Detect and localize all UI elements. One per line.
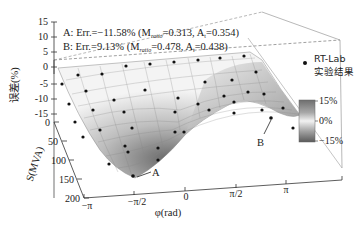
legend-line1: RT-Lab — [314, 53, 345, 64]
svg-text:B: Err.=9.13% (Mratio=0.478, A: B: Err.=9.13% (Mratio=0.478, At=0.438) — [63, 41, 228, 53]
x-tick: 0 — [184, 191, 189, 202]
colorbar-tick: 15% — [319, 95, 337, 106]
legend-line2: 实验结果 — [314, 66, 354, 77]
legend: RT-Lab 实验结果 — [303, 53, 354, 77]
colorbar-tick: −15% — [319, 135, 343, 146]
point-label-a: A — [152, 167, 160, 178]
z-axis-label: 误差(%) — [8, 67, 21, 103]
x-axis-label: φ(rad) — [155, 207, 182, 219]
z-axis: 15 10 5 0 -5 -10 -15 误差(%) — [8, 16, 57, 119]
error-surface-chart: 15 10 5 0 -5 -10 -15 误差(%) 0 50 100 150 … — [0, 0, 363, 226]
annotation-b: B: Err.=9.13% (Mratio=0.478, At=0.438) — [63, 41, 228, 53]
y-axis: 0 50 100 150 200 S(MVA) — [24, 117, 89, 204]
y-tick: 0 — [45, 117, 50, 128]
svg-text:A: Err.=−11.58% (Mratio=0.313,: A: Err.=−11.58% (Mratio=0.313, At=0.354) — [63, 27, 240, 39]
y-axis-label: S(MVA) — [24, 145, 47, 183]
legend-marker-icon — [303, 61, 307, 65]
y-tick: 150 — [59, 174, 74, 185]
y-tick: 200 — [65, 193, 80, 204]
x-axis: −π −π/2 0 π/2 π φ(rad) — [82, 176, 342, 219]
point-label-b: B — [257, 137, 264, 148]
z-tick: -10 — [35, 93, 48, 104]
y-tick: 50 — [48, 136, 58, 147]
x-tick: π/2 — [230, 188, 243, 199]
colorbar: 15% 0% −15% — [299, 95, 343, 146]
x-tick: π — [283, 184, 288, 195]
z-tick: -5 — [40, 78, 48, 89]
x-tick: −π — [82, 200, 93, 211]
z-tick: 0 — [43, 61, 48, 72]
z-tick: 5 — [43, 46, 48, 57]
z-tick: 10 — [38, 31, 48, 42]
colorbar-tick: 0% — [319, 115, 332, 126]
annotation-a: A: Err.=−11.58% (Mratio=0.313, At=0.354) — [63, 27, 240, 39]
y-tick: 100 — [51, 155, 66, 166]
z-tick: 15 — [38, 16, 48, 27]
error-surface — [58, 52, 300, 178]
x-tick: −π/2 — [128, 196, 146, 207]
